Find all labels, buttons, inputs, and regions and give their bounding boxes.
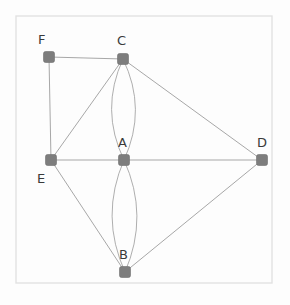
graph-edge	[123, 59, 262, 160]
node-label-d: D	[257, 136, 267, 149]
node-layer	[44, 52, 268, 278]
graph-node-a[interactable]	[119, 155, 130, 166]
node-label-a: A	[118, 136, 127, 149]
graph-edge	[51, 59, 123, 160]
node-label-b: B	[119, 248, 128, 261]
graph-node-b[interactable]	[120, 267, 131, 278]
graph-node-d[interactable]	[257, 155, 268, 166]
node-label-e: E	[37, 172, 45, 185]
node-label-f: F	[38, 33, 46, 46]
graph-node-c[interactable]	[118, 54, 129, 65]
graph-node-f[interactable]	[44, 52, 55, 63]
graph-edge	[51, 160, 125, 272]
edge-layer	[49, 57, 262, 272]
graph-edge	[49, 57, 51, 160]
graph-edge	[49, 57, 123, 59]
graph-node-e[interactable]	[46, 155, 57, 166]
graph-edge	[125, 160, 262, 272]
node-label-c: C	[117, 34, 126, 47]
graph-figure: FCABDE	[0, 0, 290, 305]
